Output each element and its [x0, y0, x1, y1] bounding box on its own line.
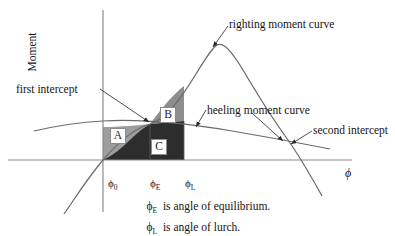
righting-moment-curve-label: righting moment curve — [229, 18, 334, 30]
tick-phi0-subscript: 0 — [114, 183, 118, 192]
region-c-label: C — [151, 139, 167, 155]
x-axis-label: ϕ — [345, 166, 351, 181]
figure-canvas: Moment first intercept righting moment c… — [0, 0, 395, 236]
y-axis-label: Moment — [26, 12, 38, 92]
righting-curve-leader — [213, 26, 228, 47]
note-lurch: ϕL is angle of lurch. — [135, 209, 240, 236]
tick-label-phi0: ϕ0 — [97, 165, 118, 204]
second-intercept-label: second intercept — [313, 124, 388, 136]
first-intercept-label: first intercept — [16, 83, 78, 95]
note-lurch-text: is angle of lurch. — [157, 221, 240, 233]
region-a-label: A — [110, 128, 126, 144]
second-intercept-leader — [291, 131, 312, 144]
heeling-moment-curve-label: heeling moment curve — [207, 104, 310, 116]
heeling-curve-leader-left — [196, 110, 206, 127]
first-intercept-leader — [100, 89, 149, 122]
region-b-label: B — [160, 107, 176, 123]
